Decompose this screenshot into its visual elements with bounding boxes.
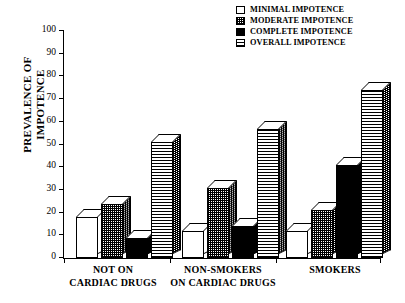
x-axis-separator-tick: [380, 258, 381, 263]
y-axis-title: PREVALENCE OF IMPOTENCE: [21, 20, 46, 190]
y-axis-tick: 50: [59, 144, 64, 145]
y-axis-line: [63, 31, 64, 258]
bar-front-face: [311, 210, 333, 258]
bar: [361, 90, 383, 258]
bar-front-face: [207, 188, 229, 258]
plot-area: 0102030405060708090100: [64, 31, 380, 258]
bar-front-face: [361, 90, 383, 258]
y-axis-tick: 90: [59, 53, 64, 54]
caption-remnant: [0, 296, 405, 303]
legend-swatch-minimal-icon: [236, 6, 245, 14]
y-axis-tick-label: 50: [47, 138, 57, 149]
category-label-not-on-cardiac-drugs: NOT ON CARDIAC DRUGS: [58, 264, 168, 289]
y-axis-tick-label: 10: [47, 228, 57, 239]
y-axis-tick-label: 80: [47, 69, 57, 80]
bar-front-face: [151, 142, 173, 258]
bar-front-face: [286, 231, 308, 258]
bar: [76, 217, 98, 258]
y-axis-title-line1: PREVALENCE OF: [21, 20, 34, 190]
bar: [101, 204, 123, 258]
category-label-smokers: SMOKERS: [285, 264, 385, 277]
legend-swatch-moderate-icon: [236, 17, 245, 25]
y-axis-tick: 10: [59, 234, 64, 235]
legend-label-minimal: MINIMAL IMPOTENCE: [250, 5, 344, 14]
bar-front-face: [257, 129, 279, 258]
category-label-line2: CARDIAC DRUGS: [58, 277, 168, 290]
y-axis-tick-label: 90: [47, 47, 57, 58]
y-axis-tick: 40: [59, 166, 64, 167]
y-axis-tick-label: 0: [51, 251, 56, 262]
bar-front-face: [126, 238, 148, 258]
x-axis-separator-tick: [276, 258, 277, 263]
category-label-non-smokers: NON-SMOKERS: [168, 264, 278, 277]
y-axis-tick-label: 40: [47, 160, 57, 171]
legend-item-moderate: MODERATE IMPOTENCE: [236, 15, 404, 26]
bar: [151, 142, 173, 258]
y-axis-tick: 80: [59, 75, 64, 76]
y-axis-tick-label: 60: [47, 115, 57, 126]
y-axis-title-line2: IMPOTENCE: [33, 20, 46, 190]
bar: [257, 129, 279, 258]
bar-front-face: [101, 204, 123, 258]
chart-figure: MINIMAL IMPOTENCE MODERATE IMPOTENCE COM…: [0, 0, 405, 303]
y-axis-tick: 70: [59, 98, 64, 99]
bar-side-face: [173, 134, 181, 254]
legend-item-minimal: MINIMAL IMPOTENCE: [236, 4, 404, 15]
bar: [286, 231, 308, 258]
y-axis-tick-label: 70: [47, 92, 57, 103]
x-axis-separator-tick: [170, 258, 171, 263]
y-axis-tick-label: 30: [47, 183, 57, 194]
bar: [207, 188, 229, 258]
bar-front-face: [232, 226, 254, 258]
y-axis-tick: 100: [59, 30, 64, 31]
bar: [232, 226, 254, 258]
x-axis-separator-tick: [64, 258, 65, 263]
bar-front-face: [76, 217, 98, 258]
bar-front-face: [182, 231, 204, 258]
bar: [126, 238, 148, 258]
legend-label-moderate: MODERATE IMPOTENCE: [250, 16, 353, 25]
category-label-on-cardiac-drugs: ON CARDIAC DRUGS: [168, 277, 278, 288]
bar: [182, 231, 204, 258]
y-axis-tick: 20: [59, 212, 64, 213]
bar: [311, 210, 333, 258]
bar: [336, 165, 358, 258]
category-label-line1: NON-SMOKERS: [168, 264, 278, 277]
category-label-line1: SMOKERS: [285, 264, 385, 277]
bar-side-face: [383, 82, 391, 254]
y-axis-tick-label: 20: [47, 206, 57, 217]
y-axis-tick: 60: [59, 121, 64, 122]
y-axis-tick: 30: [59, 189, 64, 190]
y-axis-tick-label: 100: [42, 24, 56, 35]
category-label-line1: NOT ON: [58, 264, 168, 277]
bar-front-face: [336, 165, 358, 258]
